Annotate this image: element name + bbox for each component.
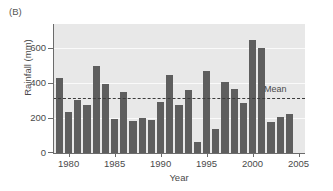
y-tick-label-200: 200 (0, 112, 46, 123)
bar-1979 (56, 78, 63, 153)
bar-1993 (185, 90, 192, 153)
x-tick-label-2000: 2000 (242, 158, 263, 169)
bar-2001 (258, 48, 265, 153)
bar-2002 (267, 122, 274, 153)
x-tick-label-1980: 1980 (58, 158, 79, 169)
y-axis-title: Rainfall (mm) (22, 13, 33, 123)
bar-1984 (102, 84, 109, 153)
bar-1983 (93, 66, 100, 153)
y-tick-label-400: 400 (0, 77, 46, 88)
bar-2000 (249, 40, 256, 153)
mean-line (53, 98, 305, 99)
x-tick-2000 (253, 153, 254, 157)
bar-1987 (129, 121, 136, 153)
x-tick-1985 (115, 153, 116, 157)
x-tick-1990 (161, 153, 162, 157)
mean-label: Mean (264, 84, 287, 94)
bar-1995 (203, 71, 210, 153)
bar-1982 (83, 105, 90, 153)
bar-1997 (221, 82, 228, 153)
plot-area: Mean (53, 24, 305, 153)
x-tick-label-2005: 2005 (288, 158, 309, 169)
x-tick-1995 (207, 153, 208, 157)
bar-1999 (240, 103, 247, 153)
bar-1991 (166, 75, 173, 153)
x-axis (53, 153, 305, 154)
bar-1994 (194, 142, 201, 153)
figure-panel-b: (B) Rainfall (mm) 600 400 200 0 Mean 198… (0, 0, 333, 191)
y-tick-label-0: 0 (0, 147, 46, 158)
bar-2003 (277, 117, 284, 153)
x-tick-label-1995: 1995 (196, 158, 217, 169)
bar-1996 (212, 129, 219, 153)
bar-1990 (157, 102, 164, 153)
y-axis (53, 24, 54, 153)
x-tick-1980 (69, 153, 70, 157)
x-tick-label-1990: 1990 (150, 158, 171, 169)
bar-1992 (175, 105, 182, 153)
panel-label: (B) (9, 6, 22, 17)
bar-2004 (286, 114, 293, 153)
y-tick-label-600: 600 (0, 42, 46, 53)
x-tick-label-1985: 1985 (104, 158, 125, 169)
bar-1986 (120, 92, 127, 153)
bar-1989 (148, 120, 155, 153)
x-axis-title: Year (53, 172, 305, 183)
bar-1988 (139, 118, 146, 153)
bar-1985 (111, 119, 118, 153)
x-tick-2005 (299, 153, 300, 157)
bar-1981 (74, 100, 81, 153)
bar-1980 (65, 112, 72, 153)
